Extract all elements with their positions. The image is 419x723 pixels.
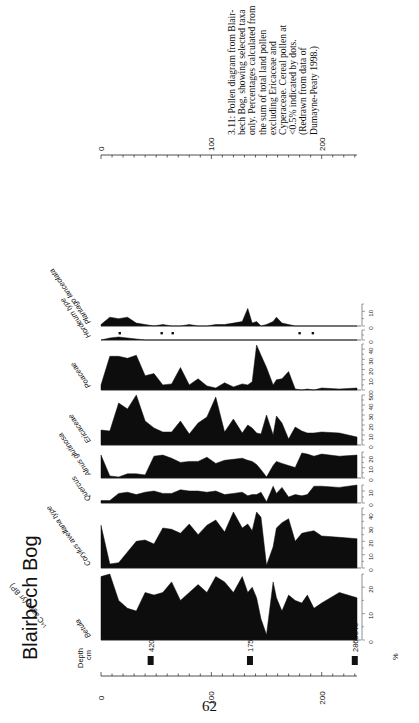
pollen-curve	[101, 512, 357, 568]
value-tick-label: 40	[367, 347, 374, 354]
pollen-curve	[101, 574, 357, 640]
value-tick-label: 20	[367, 585, 374, 592]
depth-unit-label: cm	[84, 650, 93, 660]
pollen-curve	[101, 453, 357, 478]
date-marker	[148, 656, 154, 665]
series-poaceae: 010203040Poaceae	[68, 344, 374, 394]
series-plantago-lanceolata: 010Plantago lanceolata	[47, 267, 374, 330]
value-tick-label: 10	[367, 433, 374, 440]
value-tick-label: 0	[367, 568, 374, 572]
date-marker	[352, 656, 358, 665]
taxon-label: Corylus avellana type	[44, 504, 93, 568]
cereal-dot	[160, 332, 162, 334]
percent-label: %	[391, 653, 400, 660]
value-tick-label: 0	[367, 640, 374, 644]
taxon-label: Betula	[73, 617, 93, 640]
series-quercus: 010Quercus	[69, 474, 374, 506]
value-tick-label: 0	[367, 503, 374, 507]
value-tick-label: 0	[367, 445, 374, 449]
series-betula: 01020Betula	[73, 574, 374, 644]
taxon-label: Quercus	[69, 474, 93, 503]
value-tick-label: 30	[367, 357, 374, 364]
series-corylus-avellana-type: 010203040Corylus avellana type	[44, 504, 374, 572]
value-tick-label: 30	[367, 413, 374, 420]
value-tick-label: 10	[367, 466, 374, 473]
value-tick-label: 20	[367, 423, 374, 430]
book-page: Blairbech BogDepthcm¹⁴C ages (yr BP)3.11…	[0, 0, 419, 723]
top-depth-tick-label: 200	[318, 137, 327, 151]
top-depth-axis: 0100200	[97, 137, 357, 159]
value-tick-label: 20	[367, 539, 374, 546]
top-depth-tick-label: 0	[97, 146, 106, 151]
value-tick-label: 0	[367, 390, 374, 394]
value-tick-label: 40	[367, 513, 374, 520]
taxon-label: Poaceae	[68, 361, 92, 390]
caption: 3.11: Pollen diagram from Blair-bech Bog…	[226, 5, 320, 135]
cereal-dot	[312, 332, 314, 334]
pollen-curve	[101, 308, 357, 326]
value-tick-label: 20	[367, 368, 374, 375]
value-tick-label: 30	[367, 526, 374, 533]
value-tick-label: 0	[367, 478, 374, 482]
top-depth-tick-label: 100	[207, 137, 216, 151]
cereal-dot	[119, 332, 121, 334]
value-tick-label: 20	[367, 455, 374, 462]
pollen-curve	[101, 485, 357, 503]
date-marker	[247, 656, 253, 665]
pollen-curve	[101, 337, 357, 340]
value-tick-label: 10	[367, 489, 374, 496]
taxon-label: Ericaceae	[66, 413, 93, 445]
page-number: 62	[0, 698, 419, 715]
cereal-dot	[172, 332, 174, 334]
series-hordeum-type: 0Hordeum type	[58, 296, 374, 343]
value-tick-label: 0	[367, 326, 374, 330]
value-tick-label: 10	[367, 309, 374, 316]
value-tick-label: 10	[367, 378, 374, 385]
series-ericaceae: 01020304050Ericaceae	[66, 393, 374, 449]
value-tick-label: 40	[367, 403, 374, 410]
value-tick-label: 10	[367, 553, 374, 560]
pollen-diagram: Blairbech BogDepthcm¹⁴C ages (yr BP)3.11…	[0, 0, 419, 723]
cereal-dot	[298, 332, 300, 334]
value-tick-label: 0	[367, 340, 374, 344]
caption-line: Dumayne-Peaty 1998.)	[308, 46, 320, 135]
value-tick-label: 10	[367, 612, 374, 619]
pollen-curve	[101, 395, 357, 445]
pollen-curve	[101, 345, 357, 390]
